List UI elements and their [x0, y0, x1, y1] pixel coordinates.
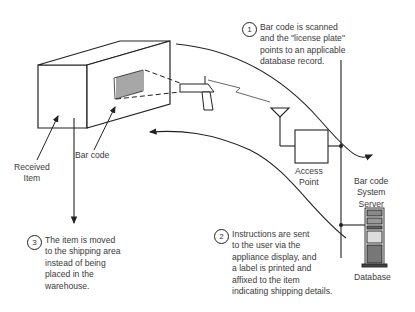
access-point-label: Access Point: [295, 166, 323, 189]
server-label: Bar code System Server: [354, 176, 388, 210]
step-2: 2 Instructions are sentto the user via t…: [214, 229, 332, 297]
step-1: 1 Bar code is scannedand the "license pl…: [242, 22, 346, 68]
step-number-badge: 1: [242, 22, 257, 37]
step-1-text: Bar code is scannedand the "license plat…: [260, 22, 346, 68]
received-item-label: Received Item: [14, 162, 50, 185]
bar-code-label: Bar code: [75, 150, 109, 161]
step-3: 3 The item is movedto the shipping area …: [27, 235, 121, 292]
received-item-box-icon: [38, 41, 170, 128]
access-point-icon: [271, 108, 341, 163]
database-label: Database: [354, 272, 391, 283]
wireless-signal-icon: [208, 80, 270, 102]
step-3-text: The item is movedto the shipping area in…: [45, 235, 121, 292]
step-2-text: Instructions are sentto the user via the…: [232, 229, 332, 297]
server-database-icon: [362, 208, 387, 267]
step-number-badge: 2: [214, 229, 229, 244]
scanner-icon: [180, 76, 214, 110]
step-number-badge: 3: [27, 235, 42, 250]
